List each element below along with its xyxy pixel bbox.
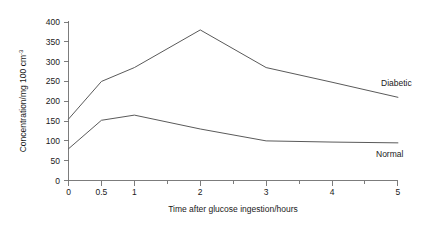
y-tick-label: 200 bbox=[46, 96, 60, 106]
y-tick-label: 250 bbox=[46, 76, 60, 86]
x-axis-tick-labels: 0 0.5 1 2 3 4 5 bbox=[66, 187, 400, 197]
y-tick-label: 350 bbox=[46, 37, 60, 47]
glucose-tolerance-line-chart: 0 50 100 150 200 250 300 350 400 bbox=[0, 0, 440, 226]
y-axis-tick-labels: 0 50 100 150 200 250 300 350 400 bbox=[46, 17, 60, 186]
x-tick-label: 0.5 bbox=[95, 187, 107, 197]
x-tick-label: 2 bbox=[198, 187, 203, 197]
chart-figure: 0 50 100 150 200 250 300 350 400 bbox=[0, 0, 440, 226]
y-axis-ticks bbox=[64, 22, 69, 181]
series-label-normal: Normal bbox=[376, 149, 404, 159]
y-tick-label: 150 bbox=[46, 116, 60, 126]
x-tick-label: 0 bbox=[66, 187, 71, 197]
series-label-diabetic: Diabetic bbox=[381, 78, 412, 88]
y-axis-title-text: Concentration/mg 100 cm bbox=[18, 55, 28, 152]
y-tick-label: 50 bbox=[51, 156, 61, 166]
x-tick-label: 5 bbox=[396, 187, 401, 197]
x-tick-label: 3 bbox=[264, 187, 269, 197]
x-tick-label: 1 bbox=[132, 187, 137, 197]
y-tick-label: 400 bbox=[46, 17, 60, 27]
series-line-diabetic bbox=[69, 30, 398, 119]
y-axis-title: Concentration/mg 100 cm-3 bbox=[18, 49, 28, 152]
series-line-normal bbox=[69, 115, 398, 149]
y-tick-label: 300 bbox=[46, 57, 60, 67]
y-axis-title-superscript: -3 bbox=[18, 49, 24, 55]
x-tick-label: 4 bbox=[330, 187, 335, 197]
x-axis-title: Time after glucose ingestion/hours bbox=[168, 204, 298, 214]
y-tick-label: 0 bbox=[55, 176, 60, 186]
y-tick-label: 100 bbox=[46, 136, 60, 146]
